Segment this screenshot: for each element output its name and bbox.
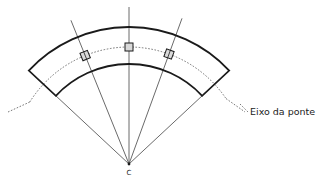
radial-line-left-end bbox=[56, 96, 129, 164]
curved-bridge-diagram: C Eixo da ponte bbox=[0, 0, 325, 184]
bearing-3 bbox=[164, 49, 174, 59]
bridge-axis-dashed-arc bbox=[30, 47, 226, 102]
radial-support-line-3 bbox=[129, 18, 182, 164]
radial-line-right-end bbox=[129, 96, 202, 164]
center-label: C bbox=[127, 169, 132, 177]
bearings bbox=[80, 43, 174, 61]
bearing-box bbox=[125, 43, 133, 51]
bridge-axis-tail-right bbox=[226, 99, 245, 112]
axis-label-leader bbox=[240, 104, 248, 112]
radial-support-line-1 bbox=[71, 20, 129, 164]
bearing-1 bbox=[80, 50, 90, 60]
bridge-axis-tail-left bbox=[8, 102, 30, 112]
axis-label: Eixo da ponte bbox=[250, 106, 315, 117]
center-point bbox=[128, 163, 131, 166]
bearing-2 bbox=[125, 43, 133, 51]
